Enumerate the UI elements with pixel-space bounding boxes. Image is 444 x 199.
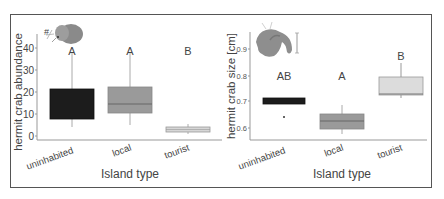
left-y-ticks: 0 10 20 30 40: [23, 43, 37, 142]
hermit-crab-illustration-left: #: [44, 24, 83, 44]
right-panel: 0.6 0.7 0.8 0.9 hermit crab size [cm]: [225, 22, 427, 181]
figure-svg: 0 10 20 30 40 hermit crab abundance: [0, 0, 444, 199]
right-ytick-0.7: 0.7: [237, 97, 247, 106]
right-box-local: [320, 105, 364, 134]
left-letter-tourist: B: [184, 45, 191, 57]
left-xtick-local: local: [111, 142, 133, 159]
right-ytick-0.6: 0.6: [237, 124, 247, 133]
right-x-label: Island type: [313, 167, 371, 181]
left-ytick-10: 10: [23, 109, 35, 120]
left-ytick-0: 0: [28, 131, 34, 142]
left-xtick-tourist: tourist: [163, 141, 191, 160]
left-y-label: hermit crab abundance: [12, 33, 24, 151]
left-box-uninhabited: [50, 52, 94, 127]
left-letter-local: A: [126, 45, 134, 57]
left-xtick-uninhabited: uninhabited: [25, 145, 75, 172]
left-ytick-20: 20: [23, 87, 35, 98]
left-box-tourist: [166, 124, 210, 134]
right-letter-uninhabited: AB: [277, 70, 292, 82]
left-letter-uninhabited: A: [68, 45, 76, 57]
right-ytick-0.8: 0.8: [237, 72, 247, 81]
left-x-label: Island type: [101, 167, 159, 181]
right-box-uninhabited: [263, 98, 305, 118]
right-xtick-tourist: tourist: [376, 141, 404, 160]
left-ytick-30: 30: [23, 65, 35, 76]
left-letters: A A B: [68, 45, 191, 57]
left-ytick-40: 40: [23, 43, 35, 54]
right-ytick-0.9: 0.9: [237, 45, 247, 54]
right-xtick-local: local: [323, 142, 345, 159]
right-box-tourist: [379, 63, 423, 98]
right-outlier-uninhabited: [283, 116, 285, 118]
left-box-local: [108, 52, 152, 125]
right-letter-tourist: B: [397, 50, 404, 62]
left-panel: 0 10 20 30 40 hermit crab abundance: [12, 24, 222, 181]
right-letter-local: A: [338, 70, 346, 82]
right-xtick-uninhabited: uninhabited: [237, 145, 287, 172]
hash-mark: #: [44, 27, 49, 37]
right-y-label: hermit crab size [cm]: [225, 33, 237, 139]
right-y-ticks: 0.6 0.7 0.8 0.9: [237, 45, 250, 133]
hermit-crab-illustration-right: [256, 22, 299, 57]
